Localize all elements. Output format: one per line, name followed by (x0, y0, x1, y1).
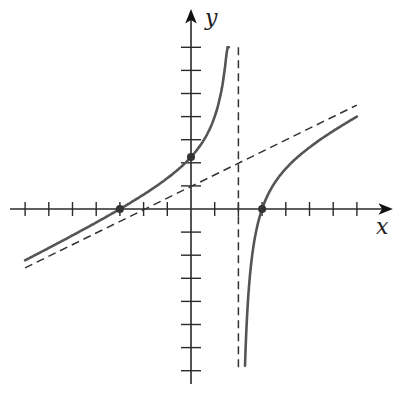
chart-canvas: x y (0, 0, 405, 395)
x-axis-label: x (376, 214, 389, 239)
marked-point (116, 205, 124, 213)
marked-point (187, 153, 195, 161)
y-axis-label: y (204, 5, 218, 30)
marked-point (258, 205, 266, 213)
curve-right-branch (245, 117, 357, 366)
curve-left-branch (25, 47, 229, 260)
